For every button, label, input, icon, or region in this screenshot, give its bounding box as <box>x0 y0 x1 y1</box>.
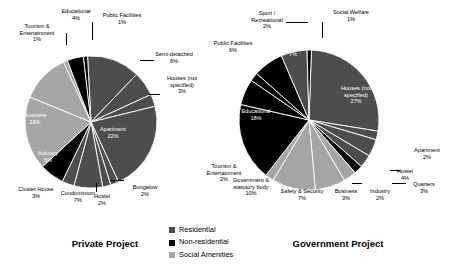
pie-slice-label: Industry 6% <box>29 150 67 163</box>
pie-slice-label: Safety & Security 7% <box>275 188 329 201</box>
pie-slice-label: Social Welfare 1% <box>323 9 379 22</box>
label-leader-line <box>140 60 154 61</box>
legend-swatch-social-amenities <box>169 252 175 258</box>
pie-slice-label: Tourism & Entertainment 1% <box>8 23 66 43</box>
pie-slice-label: Industry 2% <box>363 188 397 201</box>
legend-label-social-amenities: Social Amenities <box>179 249 233 261</box>
pie-slice-label: Public Facilities 6% <box>206 40 260 53</box>
pie-slice-label: Houses (not specified) 3% <box>158 75 206 95</box>
pie-slice-label: Educational 18% <box>230 108 282 121</box>
pie-slice-label: Bungalow 2% <box>124 184 166 197</box>
legend-item-non-residential: Non-residential <box>169 236 233 248</box>
legend-swatch-non-residential <box>169 240 175 246</box>
pie-slice-label: Office 12% <box>22 62 60 75</box>
label-leader-line <box>66 33 67 45</box>
chart-title-government: Government Project <box>258 238 418 249</box>
chart-legend: Residential Non-residential Social Ameni… <box>169 224 233 261</box>
legend-label-residential: Residential <box>179 224 216 236</box>
pie-slice-label: Semi-detached 6% <box>146 51 202 64</box>
label-leader-line <box>392 183 406 184</box>
chart-canvas: Private Project Government Project Resid… <box>0 0 456 275</box>
label-leader-line <box>286 22 308 23</box>
pie-slice-label: Tourism & Entertainment 2% <box>196 163 252 183</box>
pie-slice-label: Terrace 6% <box>311 40 343 53</box>
pie-slice-label: Sport / Recreational 2% <box>240 10 294 30</box>
pie-slice-label: Public Facilities 1% <box>93 12 151 25</box>
pie-slice-label: Cluster House 3% <box>10 186 62 199</box>
legend-item-social-amenities: Social Amenities <box>169 249 233 261</box>
legend-item-residential: Residential <box>169 224 233 236</box>
label-leader-line <box>322 22 323 38</box>
label-leader-line <box>390 170 400 171</box>
label-leader-line <box>96 183 97 192</box>
pie-slice-label: Health 7% <box>276 44 310 57</box>
legend-label-non-residential: Non-residential <box>179 236 229 248</box>
pie-slice-label: Apartment 22% <box>88 126 138 139</box>
chart-title-private: Private Project <box>30 238 180 249</box>
pie-slice-label: Apartment 2% <box>404 147 450 160</box>
pie-slice-label: Quarters 3% <box>404 181 444 194</box>
pie-slice-label: Houses (not specified) 27% <box>330 85 382 105</box>
pie-slice-label: Business 18% <box>14 112 56 125</box>
pie-slice-label: Terrace 13% <box>93 41 145 54</box>
label-leader-line <box>92 22 93 40</box>
label-leader-line <box>110 180 124 181</box>
label-leader-line <box>352 183 362 184</box>
pie-slice-label: Business 3% <box>328 188 364 201</box>
legend-swatch-residential <box>169 227 175 233</box>
label-leader-line <box>148 94 160 95</box>
